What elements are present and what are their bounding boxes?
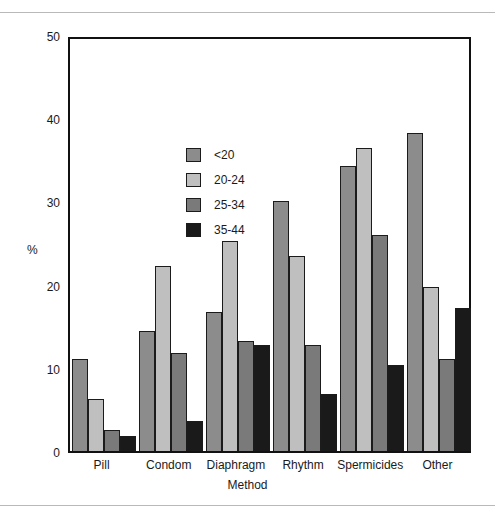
legend-swatch-25-34: [186, 198, 201, 212]
legend-item: 25-34: [186, 192, 245, 217]
legend-label-35-44: 35-44: [214, 224, 245, 236]
legend-label-20-24: 20-24: [214, 174, 245, 186]
x-tick-label-spermicides: Spermicides: [337, 458, 403, 472]
legend-label-25-34: 25-34: [214, 199, 245, 211]
bar-rhythm-35-44: [321, 394, 337, 451]
legend-swatch-35-44: [186, 223, 201, 237]
chart-page: 50403020100 % <20 20-24 25-34 35-44 Pill…: [0, 0, 495, 511]
bar-other-25-34: [439, 359, 455, 451]
y-tick-label-20: 20: [30, 281, 60, 293]
chart-legend: <20 20-24 25-34 35-44: [186, 142, 245, 242]
y-axis-title: %: [27, 243, 38, 257]
y-tick-label-40: 40: [30, 114, 60, 126]
bar-pill-lt20: [72, 359, 88, 451]
bar-other-lt20: [407, 133, 423, 451]
bar-condom-lt20: [139, 331, 155, 451]
bar-spermicides-20-24: [356, 148, 372, 451]
bar-other-35-44: [455, 308, 471, 451]
legend-swatch-lt20: [186, 148, 201, 162]
y-tick-label-10: 10: [30, 364, 60, 376]
bar-pill-25-34: [104, 430, 120, 451]
bar-spermicides-25-34: [372, 235, 388, 451]
bars-layer: [70, 39, 469, 451]
bar-pill-20-24: [88, 399, 104, 451]
plot-area: <20 20-24 25-34 35-44: [68, 37, 471, 453]
bar-condom-20-24: [155, 266, 171, 451]
x-tick-label-rhythm: Rhythm: [282, 458, 323, 472]
bar-rhythm-lt20: [273, 201, 289, 451]
y-tick-label-0: 0: [30, 447, 60, 459]
legend-item: <20: [186, 142, 245, 167]
bar-diaphragm-lt20: [206, 312, 222, 451]
x-tick-label-pill: Pill: [94, 458, 110, 472]
x-tick-label-other: Other: [422, 458, 452, 472]
x-axis-title: Method: [0, 478, 495, 492]
y-tick-label-50: 50: [30, 31, 60, 43]
legend-item: 35-44: [186, 217, 245, 242]
bar-condom-35-44: [187, 421, 203, 451]
bar-rhythm-20-24: [289, 256, 305, 451]
x-tick-label-diaphragm: Diaphragm: [207, 458, 266, 472]
legend-swatch-20-24: [186, 173, 201, 187]
bar-diaphragm-25-34: [238, 341, 254, 451]
y-tick-label-30: 30: [30, 197, 60, 209]
bar-pill-35-44: [120, 436, 136, 451]
page-top-rule: [0, 12, 495, 13]
bar-condom-25-34: [171, 353, 187, 451]
bar-other-20-24: [423, 287, 439, 451]
legend-label-lt20: <20: [214, 149, 234, 161]
legend-item: 20-24: [186, 167, 245, 192]
bar-diaphragm-20-24: [222, 241, 238, 451]
x-tick-label-condom: Condom: [146, 458, 191, 472]
bar-spermicides-lt20: [340, 166, 356, 451]
page-bottom-rule: [0, 505, 495, 506]
bar-rhythm-25-34: [305, 345, 321, 451]
bar-diaphragm-35-44: [254, 345, 270, 451]
bar-spermicides-35-44: [388, 365, 404, 451]
